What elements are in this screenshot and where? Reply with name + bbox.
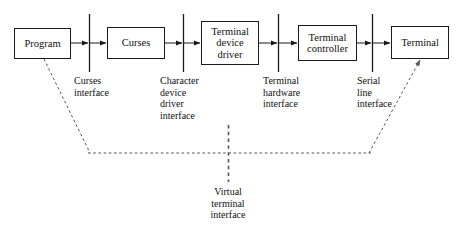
- node-terminal-controller[interactable]: Terminal controller: [298, 25, 357, 61]
- label-curses-interface: Curses interface: [74, 75, 160, 98]
- node-terminal-label: Terminal: [399, 37, 441, 49]
- node-terminal-device-driver-label: Terminal device driver: [209, 26, 251, 61]
- vti-diagonal-from-program: [44, 59, 90, 153]
- node-program[interactable]: Program: [14, 28, 71, 59]
- label-serial-line-interface: Serial line interface: [357, 75, 447, 110]
- label-terminal-hardware-interface: Terminal hardware interface: [263, 75, 353, 110]
- node-curses-label: Curses: [120, 37, 153, 49]
- node-program-label: Program: [22, 38, 62, 50]
- terminal-io-diagram: Program Curses Terminal device driver Te…: [0, 0, 463, 236]
- node-terminal-device-driver[interactable]: Terminal device driver: [201, 21, 259, 65]
- node-terminal-controller-label: Terminal controller: [305, 32, 350, 55]
- node-terminal[interactable]: Terminal: [391, 26, 449, 59]
- label-virtual-terminal-interface: Virtual terminal interface: [178, 186, 278, 221]
- label-character-device-driver-interface: Character device driver interface: [160, 75, 250, 121]
- node-curses[interactable]: Curses: [107, 27, 165, 59]
